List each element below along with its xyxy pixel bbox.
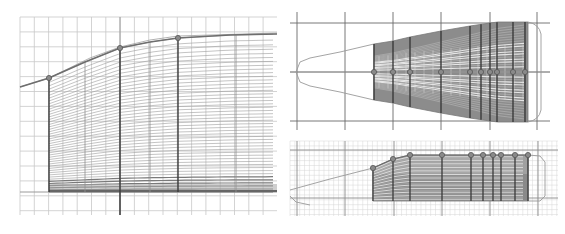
station-marker <box>407 69 412 74</box>
waterline <box>49 65 273 101</box>
hull-diagram <box>0 0 565 234</box>
station-marker <box>46 75 51 80</box>
side-profile-view <box>20 17 277 215</box>
station-marker <box>498 152 503 157</box>
waterline <box>49 45 273 86</box>
waterline <box>49 49 273 89</box>
station-marker <box>480 152 485 157</box>
station-marker <box>494 69 499 74</box>
station-marker <box>468 152 473 157</box>
waterline <box>49 136 273 153</box>
station-marker <box>487 69 492 74</box>
station-marker <box>438 69 443 74</box>
station-marker <box>175 35 180 40</box>
nose-outline-lower <box>296 72 374 100</box>
station-marker <box>522 69 527 74</box>
hull-wireframe-canvas <box>0 0 565 234</box>
nose-outline-upper <box>296 44 374 72</box>
station-marker <box>390 156 395 161</box>
station-marker <box>525 152 530 157</box>
station-marker <box>390 69 395 74</box>
waterline <box>49 61 273 98</box>
waterline <box>49 117 273 139</box>
station-marker <box>490 152 495 157</box>
side-elevation-view <box>290 141 558 216</box>
bow-guide-curve <box>290 168 373 190</box>
station-marker <box>510 69 515 74</box>
station-marker <box>467 69 472 74</box>
waterline <box>49 152 273 164</box>
station-marker <box>407 152 412 157</box>
station-marker <box>371 69 376 74</box>
station-marker <box>370 165 375 170</box>
waterline <box>49 53 273 92</box>
keel-curve <box>290 196 310 205</box>
station-marker <box>439 152 444 157</box>
plan-view <box>290 12 550 130</box>
station-marker <box>478 69 483 74</box>
station-marker <box>117 45 122 50</box>
station-marker <box>512 152 517 157</box>
